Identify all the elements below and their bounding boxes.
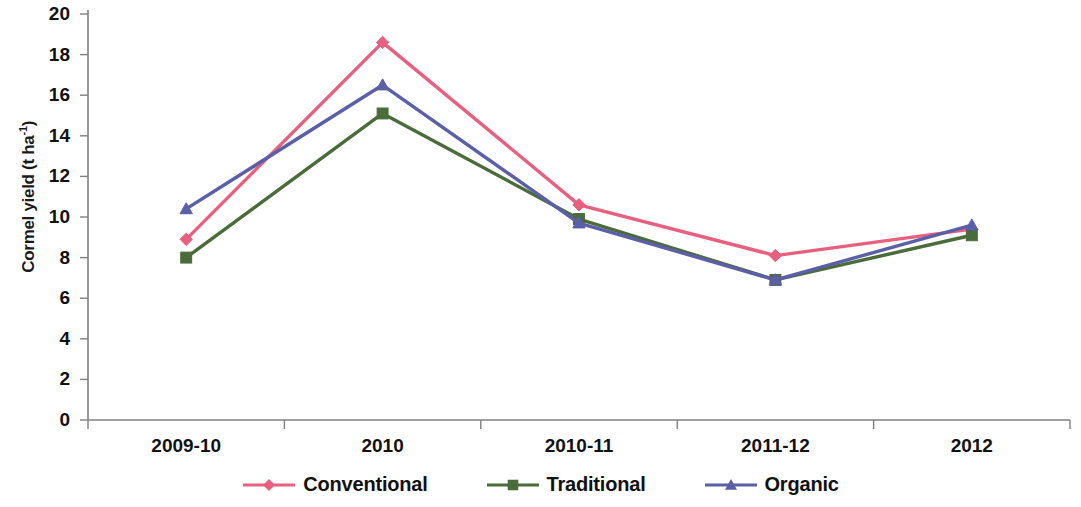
x-axis-tick-label: 2010: [288, 436, 478, 455]
data-point-marker-square: [966, 230, 977, 241]
x-axis-tick-label: 2009-10: [91, 436, 281, 455]
data-point-marker-square: [377, 108, 388, 119]
legend-square-icon: [507, 479, 518, 490]
y-axis-tick-label: 12: [26, 166, 70, 185]
chart-canvas: [0, 0, 1081, 507]
chart-legend: ConventionalTraditionalOrganic: [0, 473, 1081, 496]
y-axis-tick-label: 18: [26, 45, 70, 64]
y-axis-tick-label: 16: [26, 85, 70, 104]
y-axis-title: Cormel yield (t ha-1): [17, 77, 39, 317]
y-axis-tick-label: 10: [26, 207, 70, 226]
legend-item-traditional[interactable]: Traditional: [486, 473, 646, 496]
legend-diamond-icon: [263, 479, 275, 491]
line-chart: Cormel yield (t ha-1) 20181614121086420 …: [0, 0, 1081, 507]
data-point-marker-diamond: [769, 249, 781, 261]
y-axis-tick-label: 0: [26, 410, 70, 429]
data-point-marker-triangle: [376, 79, 388, 90]
y-axis-tick-label: 8: [26, 248, 70, 267]
y-axis-tick-label: 2: [26, 369, 70, 388]
legend-item-organic[interactable]: Organic: [704, 473, 839, 496]
legend-label: Conventional: [303, 473, 427, 496]
y-axis-tick-label: 20: [26, 4, 70, 23]
data-point-marker-square: [181, 252, 192, 263]
x-axis-tick-label: 2012: [877, 436, 1067, 455]
legend-label: Traditional: [547, 473, 646, 496]
y-axis-tick-label: 14: [26, 126, 70, 145]
legend-item-conventional[interactable]: Conventional: [242, 473, 427, 496]
series-line-organic: [186, 85, 972, 280]
x-axis-tick-label: 2010-11: [484, 436, 674, 455]
data-point-marker-triangle: [966, 219, 978, 230]
y-axis-tick-label: 6: [26, 288, 70, 307]
legend-marker-diamond-icon: [242, 475, 296, 495]
y-axis-tick-label: 4: [26, 329, 70, 348]
x-axis-tick-label: 2011-12: [680, 436, 870, 455]
legend-label: Organic: [765, 473, 839, 496]
series-line-traditional: [186, 113, 972, 279]
legend-marker-square-icon: [486, 475, 540, 495]
legend-marker-triangle-icon: [704, 475, 758, 495]
